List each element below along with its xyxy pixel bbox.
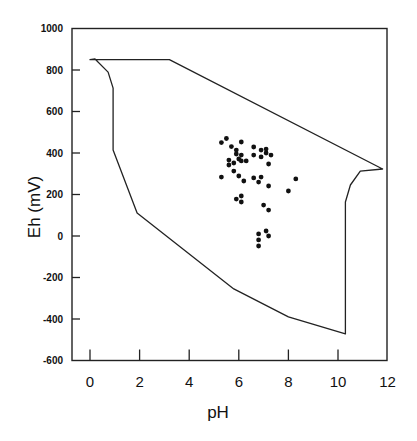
x-tick-label: 6 [235, 373, 243, 390]
plot-frame [72, 29, 387, 361]
x-axis-title: pH [207, 403, 229, 422]
data-point [256, 238, 261, 243]
y-tick-label: 200 [46, 189, 63, 200]
x-tick-label: 8 [284, 373, 292, 390]
data-point [219, 175, 224, 180]
data-point [239, 194, 244, 199]
data-point [229, 144, 234, 149]
y-tick-label: -600 [43, 355, 63, 366]
y-axis-title: Eh (mV) [25, 176, 44, 238]
x-tick-label: 2 [135, 373, 143, 390]
y-tick-label: 800 [46, 65, 63, 76]
y-tick-label: -200 [43, 272, 63, 283]
y-tick-label: 400 [46, 148, 63, 159]
data-point [241, 179, 246, 184]
data-point [266, 162, 271, 167]
data-point [256, 232, 261, 237]
data-points [219, 136, 298, 248]
x-tick-label: 10 [330, 373, 347, 390]
data-point [244, 159, 249, 164]
data-point [231, 161, 236, 166]
plot-border [72, 29, 387, 361]
data-point [293, 177, 298, 182]
data-point [251, 145, 256, 150]
data-point [219, 140, 224, 145]
y-tick-label: 600 [46, 106, 63, 117]
data-point [259, 175, 264, 180]
eh-ph-chart: 10008006004002000-200-400-600 024681012 … [0, 0, 417, 441]
data-point [269, 153, 274, 158]
data-point [266, 234, 271, 239]
data-point [251, 153, 256, 158]
data-point [266, 184, 271, 189]
data-point [251, 176, 256, 181]
data-point [227, 158, 232, 163]
data-point [256, 180, 261, 185]
x-tick-label: 12 [379, 373, 396, 390]
data-point [256, 244, 261, 249]
data-point [234, 152, 239, 157]
eh-ph-boundary-polygon [90, 59, 383, 334]
x-axis-ticks: 024681012 [86, 350, 396, 390]
data-point [224, 136, 229, 141]
data-point [259, 148, 264, 153]
y-axis-ticks: 10008006004002000-200-400-600 [41, 23, 80, 366]
data-point [239, 159, 244, 164]
data-point [259, 155, 264, 160]
data-point [286, 189, 291, 194]
y-tick-label: -400 [43, 314, 63, 325]
data-point [239, 140, 244, 145]
data-point [239, 200, 244, 205]
data-point [236, 174, 241, 179]
data-point [264, 151, 269, 156]
y-tick-label: 1000 [41, 23, 64, 34]
x-tick-label: 0 [86, 373, 94, 390]
y-tick-label: 0 [57, 231, 63, 242]
data-point [227, 163, 232, 168]
data-point [261, 203, 266, 208]
data-point [231, 169, 236, 174]
data-point [234, 197, 239, 202]
data-point [264, 229, 269, 234]
x-tick-label: 4 [185, 373, 193, 390]
data-point [266, 208, 271, 213]
